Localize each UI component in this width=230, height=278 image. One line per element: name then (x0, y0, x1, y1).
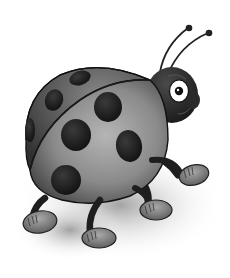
antennae (160, 25, 212, 74)
shell (26, 68, 168, 204)
shoe-middle-right (140, 200, 172, 220)
shoe-bottom-middle (82, 228, 116, 248)
ladybug-svg (0, 0, 230, 278)
pupil (175, 87, 183, 95)
ladybug-illustration (0, 0, 230, 278)
